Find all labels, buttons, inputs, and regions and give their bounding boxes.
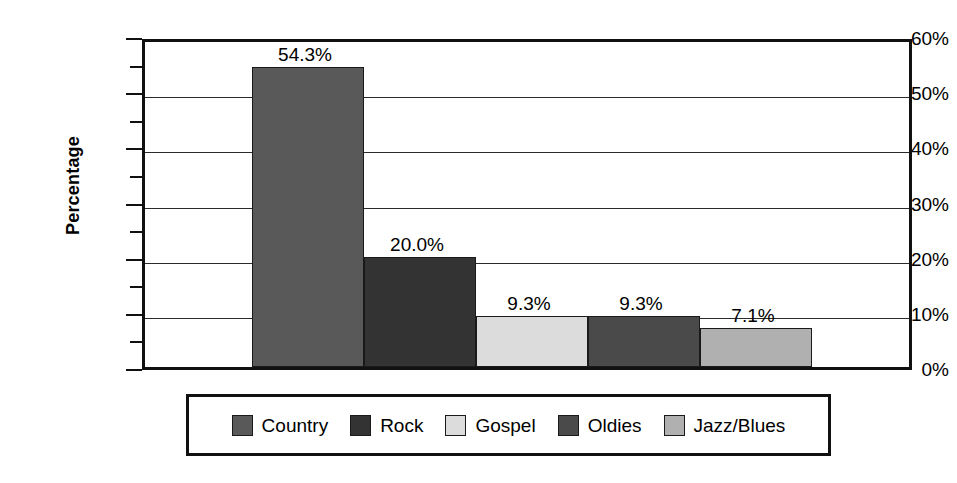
y-axis-tick-minor [130, 121, 142, 123]
bar-chart: Percentage 0%10%20%30%40%50%60% 54.3%20.… [0, 0, 957, 483]
bar-value-label: 9.3% [585, 294, 697, 314]
y-axis-tick-major [126, 204, 142, 206]
bar [700, 328, 812, 367]
y-axis-tick-major [126, 93, 142, 95]
y-axis-tick-minor [130, 231, 142, 233]
bar-value-label: 9.3% [473, 294, 585, 314]
bar-value-label: 7.1% [697, 306, 809, 326]
y-axis-tick-major [126, 148, 142, 150]
legend-item[interactable]: Gospel [445, 415, 535, 436]
bar [252, 67, 364, 367]
legend-swatch-icon [558, 415, 579, 436]
y-axis-tick-major [126, 38, 142, 40]
legend-swatch-icon [445, 415, 466, 436]
legend-item[interactable]: Oldies [558, 415, 642, 436]
legend-item-label: Gospel [475, 416, 535, 435]
y-axis-title: Percentage [63, 91, 84, 281]
legend-item-label: Oldies [588, 416, 642, 435]
bar [476, 316, 588, 367]
y-axis-tick-minor [130, 176, 142, 178]
bar-value-label: 54.3% [249, 45, 361, 65]
y-axis-tick-major [126, 259, 142, 261]
bar [588, 316, 700, 367]
legend-item-label: Rock [380, 416, 423, 435]
y-axis-tick-minor [130, 341, 142, 343]
legend-item-label: Jazz/Blues [694, 416, 786, 435]
y-axis-tick-major [126, 314, 142, 316]
legend-item[interactable]: Country [232, 415, 329, 436]
legend-item[interactable]: Rock [350, 415, 423, 436]
y-axis-tick-minor [130, 66, 142, 68]
legend-item[interactable]: Jazz/Blues [664, 415, 786, 436]
bar [364, 257, 476, 367]
y-axis-tick-major [126, 369, 142, 371]
bar-value-label: 20.0% [361, 235, 473, 255]
legend-item-label: Country [262, 416, 329, 435]
legend: CountryRockGospelOldiesJazz/Blues [186, 394, 831, 456]
legend-swatch-icon [232, 415, 253, 436]
legend-swatch-icon [350, 415, 371, 436]
y-axis-tick-minor [130, 286, 142, 288]
legend-swatch-icon [664, 415, 685, 436]
